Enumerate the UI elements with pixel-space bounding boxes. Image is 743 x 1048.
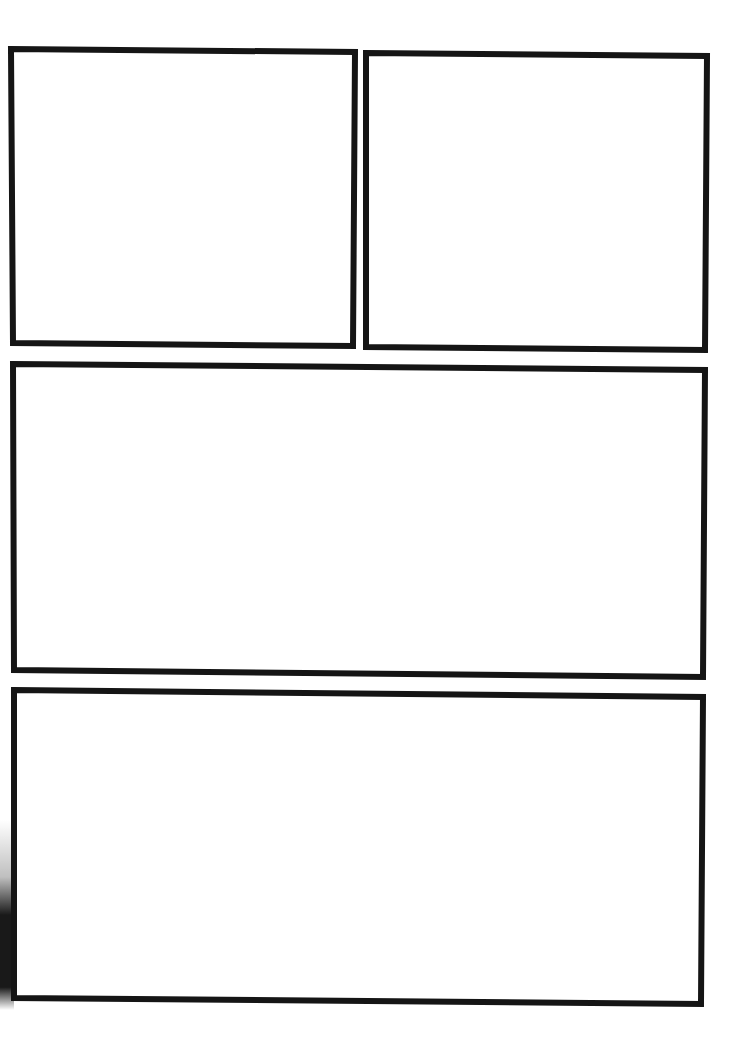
panel-bottom-wide [14,690,703,1004]
comic-page [0,0,743,1048]
panel-top-left [11,49,355,346]
panel-middle-wide [13,364,705,677]
panel-top-right [366,53,707,350]
panel-layout [0,0,743,1048]
